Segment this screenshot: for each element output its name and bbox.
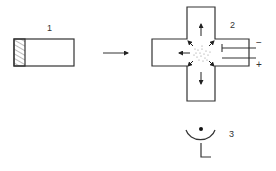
ionization-chamber: 2 − +: [152, 7, 262, 101]
arrow-nw-icon: [188, 41, 193, 46]
mass-spec-diagram: 1 2 −: [0, 0, 276, 171]
label-2: 2: [230, 20, 235, 30]
hatched-sample: [14, 39, 25, 66]
negative-sign: −: [256, 37, 262, 48]
arrow-ne-icon: [209, 41, 214, 46]
detector-cup-icon: [186, 130, 215, 140]
label-3: 3: [229, 129, 234, 139]
detector-dot-icon: [199, 127, 203, 131]
electrodes: [222, 44, 256, 58]
sample-holder: 1: [14, 23, 74, 66]
detector: 3: [186, 127, 234, 157]
ion-cloud: [194, 46, 211, 62]
positive-sign: +: [256, 59, 262, 70]
label-1: 1: [47, 23, 52, 33]
detector-stem: [201, 143, 211, 157]
arrow-sw-icon: [188, 61, 193, 66]
ion-arrows: [179, 24, 214, 84]
arrow-se-icon: [209, 61, 214, 66]
